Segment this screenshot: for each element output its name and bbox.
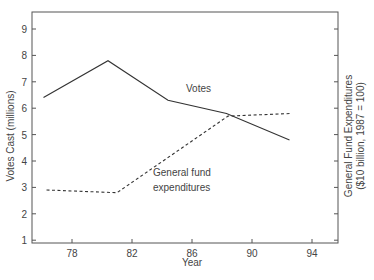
y-tick-label: 2 (21, 209, 27, 220)
y-tick-label: 8 (21, 50, 27, 61)
y-tick-label: 1 (21, 235, 27, 246)
y-axis-label: Votes Cast (millions) (5, 90, 16, 181)
x-tick-label: 82 (126, 248, 138, 259)
votes-annotation: Votes (186, 83, 211, 94)
y2-axis-label-line2: ($10 billion, 1987 = 100) (355, 82, 366, 190)
x-tick-label: 90 (246, 248, 258, 259)
expenditures-annotation-line1: General fund (153, 167, 211, 178)
y-tick-label: 4 (21, 156, 27, 167)
expenditures-annotation-line2: expenditures (153, 182, 210, 193)
y-tick-label: 7 (21, 77, 27, 88)
x-tick-label: 78 (66, 248, 78, 259)
y-tick-label: 6 (21, 103, 27, 114)
y2-axis-label-line1: General Fund Expenditures (343, 75, 354, 197)
y-tick-label: 5 (21, 130, 27, 141)
votes-line (44, 61, 290, 140)
y-tick-label: 3 (21, 182, 27, 193)
plot-frame (32, 12, 338, 243)
y-axis-ticks: 123456789 (21, 24, 36, 246)
axes-frame (32, 12, 338, 243)
line-chart: 123456789 7882869094 Votes General fund … (0, 0, 374, 280)
x-axis-ticks: 7882869094 (66, 239, 318, 259)
x-tick-label: 94 (306, 248, 318, 259)
y2-axis-ticks (334, 29, 338, 240)
y-tick-label: 9 (21, 24, 27, 35)
x-axis-label: Year (182, 257, 203, 268)
